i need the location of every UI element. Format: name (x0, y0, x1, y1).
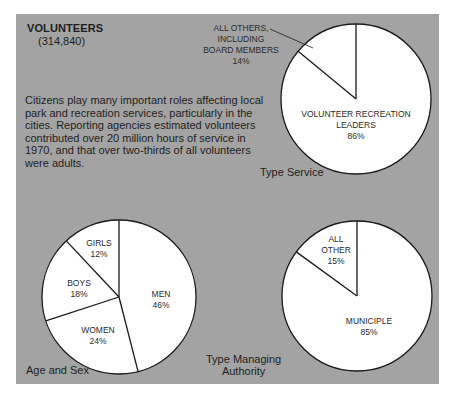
slice-pct-all-other: 15% (327, 256, 344, 266)
slice-pct-boys: 18% (70, 289, 87, 299)
caption-auth-line-2: Authority (206, 365, 281, 377)
slice-label-men: MEN (152, 289, 171, 299)
slice-label-leaders: VOLUNTEER RECREATION (301, 109, 410, 119)
slice-label-leaders-2: LEADERS (336, 120, 376, 130)
slice-label-women: WOMEN (81, 325, 115, 335)
leader-line (270, 29, 313, 48)
caption-type-service: Type Service (260, 166, 324, 178)
pie-charts: VOLUNTEER RECREATION LEADERS 86% MEN 46%… (0, 0, 455, 401)
pie-managing-authority: MUNICIPLE 85% ALL OTHER 15% (282, 221, 432, 371)
pie-type-service: VOLUNTEER RECREATION LEADERS 86% (270, 24, 431, 174)
caption-managing-authority: Type Managing Authority (206, 353, 281, 377)
slice-pct-leaders: 86% (347, 131, 364, 141)
slice-label-municiple: MUNICIPLE (346, 316, 393, 326)
pie-age-sex: MEN 46% WOMEN 24% BOYS 18% GIRLS 12% (42, 220, 196, 374)
caption-auth-line-1: Type Managing (206, 353, 281, 365)
slice-label-all-other: ALL (328, 234, 343, 244)
slice-pct-municiple: 85% (360, 327, 377, 337)
caption-age-sex: Age and Sex (26, 364, 89, 376)
slice-label-boys: BOYS (67, 278, 91, 288)
slice-pct-girls: 12% (90, 249, 107, 259)
slice-label-all-other-2: OTHER (321, 245, 351, 255)
slice-pct-women: 24% (89, 336, 106, 346)
slice-label-girls: GIRLS (86, 238, 112, 248)
slice-pct-men: 46% (152, 300, 169, 310)
